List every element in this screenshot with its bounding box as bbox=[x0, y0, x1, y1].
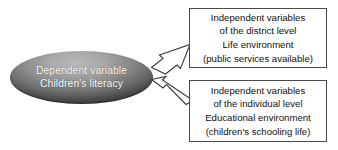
district-box-line-4: (public services available) bbox=[203, 52, 313, 66]
dependent-variable-line-2: Children's literacy bbox=[40, 78, 123, 91]
diagram-canvas: Dependent variable Children's literacy I… bbox=[0, 0, 338, 150]
district-box-line-1: Independent variables bbox=[211, 11, 305, 25]
dependent-variable-node: Dependent variable Children's literacy bbox=[10, 51, 153, 104]
individual-box-line-2: of the individual level bbox=[213, 97, 302, 111]
district-box-line-3: Life environment bbox=[223, 38, 294, 52]
individual-box-line-3: Educational environment bbox=[205, 111, 311, 125]
dependent-variable-line-1: Dependent variable bbox=[36, 65, 127, 78]
individual-box-line-4: (children's schooling life) bbox=[206, 125, 311, 139]
independent-variables-district-box: Independent variables of the district le… bbox=[189, 8, 327, 68]
dependent-variable-label: Dependent variable Children's literacy bbox=[10, 51, 153, 104]
district-box-line-2: of the district level bbox=[220, 24, 297, 38]
individual-box-line-1: Independent variables bbox=[211, 84, 305, 98]
independent-variables-individual-box: Independent variables of the individual … bbox=[189, 80, 327, 142]
